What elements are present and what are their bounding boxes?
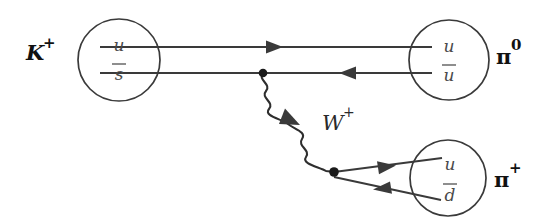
kaon-quark-label-u: u xyxy=(114,35,125,55)
pion-plus-label-charge: + xyxy=(509,159,522,177)
kaon-quark-label-s: s xyxy=(115,64,124,84)
feynman-diagram-canvas: u s u u u d K + π 0 π + xyxy=(0,0,551,224)
pion-plus-label: π xyxy=(494,167,509,192)
w-boson-label-charge: + xyxy=(343,104,355,120)
vertex-upper xyxy=(259,69,268,78)
vertex-lower xyxy=(329,167,339,177)
pion-zero-quark-label-u: u xyxy=(444,36,455,56)
pion-plus-quark-label-dbar: d xyxy=(445,185,456,205)
pion-zero-label-charge: 0 xyxy=(511,36,521,54)
pion-plus-quark-label-u: u xyxy=(445,154,456,174)
feynman-diagram-figure: u s u u u d K + π 0 π + xyxy=(0,0,551,224)
kaon-plus-label-charge: + xyxy=(43,34,56,52)
diagram-background xyxy=(0,0,551,224)
pion-zero-quark-label-ubar: u xyxy=(444,65,455,85)
pion-zero-label: π xyxy=(496,44,511,69)
kaon-plus-label: K xyxy=(25,40,45,65)
